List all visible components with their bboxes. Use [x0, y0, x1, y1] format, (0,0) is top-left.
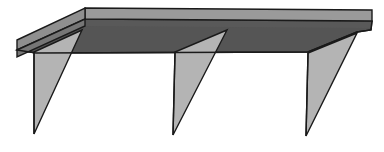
- shelf-edge-band: [85, 8, 372, 21]
- shelf-illustration: [0, 0, 384, 152]
- shelf-drawing-canvas: [0, 0, 384, 152]
